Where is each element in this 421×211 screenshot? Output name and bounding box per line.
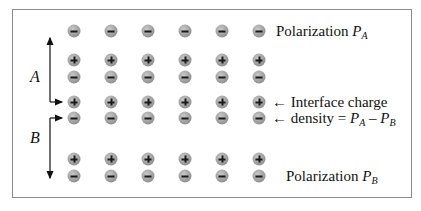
interface-charge-label: ← Interface charge <box>272 95 387 110</box>
region-b-arrow <box>50 118 62 178</box>
polarization-a-label: Polarization PA <box>276 24 368 41</box>
region-a-arrow <box>50 38 62 102</box>
polarization-b-label: Polarization PB <box>286 169 378 186</box>
interface-density-label: ← density = PA – PB <box>272 111 396 128</box>
region-b-label: B <box>30 129 40 147</box>
region-a-label: A <box>30 68 40 86</box>
